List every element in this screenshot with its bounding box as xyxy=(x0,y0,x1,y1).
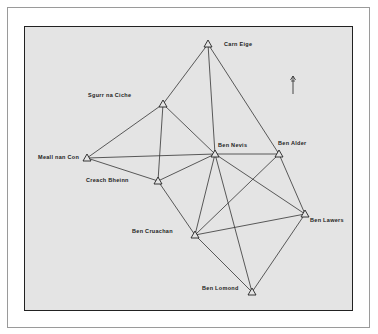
edges-layer xyxy=(87,44,305,292)
north-arrow-icon xyxy=(291,76,296,94)
edge-sgurr-na-ciche-creach-bheinn xyxy=(158,104,163,181)
station-label-ben-nevis: Ben Nevis xyxy=(218,142,247,148)
edge-ben-lawers-ben-cruachan xyxy=(195,214,305,235)
station-triangle-icon xyxy=(83,154,91,161)
edge-carn-eige-ben-nevis xyxy=(208,44,215,154)
edge-ben-cruachan-ben-lomond xyxy=(195,235,252,292)
station-label-ben-lomond: Ben Lomond xyxy=(202,285,239,291)
triangulation-diagram xyxy=(0,0,378,334)
station-label-ben-alder: Ben Alder xyxy=(278,140,306,146)
edge-ben-nevis-ben-cruachan xyxy=(195,154,215,235)
edge-carn-eige-sgurr-na-ciche xyxy=(163,44,208,104)
station-triangle-icon xyxy=(159,100,167,107)
station-label-ben-cruachan: Ben Cruachan xyxy=(132,228,173,234)
station-label-sgurr-na-ciche: Sgurr na Ciche xyxy=(88,92,131,98)
station-triangle-icon xyxy=(204,40,212,47)
station-label-meall-nan-con: Meall nan Con xyxy=(38,154,79,160)
edge-carn-eige-ben-alder xyxy=(208,44,279,154)
edge-creach-bheinn-ben-nevis xyxy=(158,154,215,181)
station-label-carn-eige: Carn Eige xyxy=(224,41,252,47)
edge-ben-lawers-ben-lomond xyxy=(252,214,305,292)
edge-meall-nan-con-ben-nevis xyxy=(87,154,215,158)
station-label-ben-lawers: Ben Lawers xyxy=(310,217,344,223)
station-triangle-icon xyxy=(275,150,283,157)
edge-sgurr-na-ciche-meall-nan-con xyxy=(87,104,163,158)
edge-sgurr-na-ciche-ben-nevis xyxy=(163,104,215,154)
edge-creach-bheinn-ben-cruachan xyxy=(158,181,195,235)
edge-ben-alder-ben-cruachan xyxy=(195,154,279,235)
station-triangle-icon xyxy=(301,210,309,217)
station-label-creach-bheinn: Creach Bheinn xyxy=(86,177,129,183)
